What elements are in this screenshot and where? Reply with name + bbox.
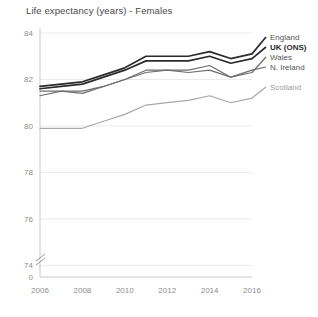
y-axis-tick-label: 84 <box>24 29 33 38</box>
y-axis-tick-label: 82 <box>24 75 33 84</box>
chart-container: Life expectancy (years) - Females 848280… <box>0 0 318 317</box>
y-axis-tick-label: 76 <box>24 215 33 224</box>
legend-item-uk-ons[interactable]: UK (ONS) <box>270 43 307 52</box>
series-line <box>40 70 252 93</box>
legend-item-england[interactable]: England <box>270 33 299 42</box>
x-axis-tick-label: 2006 <box>31 286 49 295</box>
legend-leader-line <box>252 87 266 98</box>
series-line <box>40 96 252 129</box>
y-axis-zero-label: 0 <box>29 273 34 282</box>
legend-item-scotland[interactable]: Scotland <box>270 83 301 92</box>
x-axis-tick-label: 2012 <box>158 286 176 295</box>
legend-leader-line <box>252 47 266 59</box>
y-axis-tick-label: 80 <box>24 122 33 131</box>
series-line <box>40 52 252 87</box>
line-chart: 8482807876740200620082010201220142016Eng… <box>0 0 318 317</box>
legend-leader-line <box>252 37 266 54</box>
y-axis-tick-label: 74 <box>24 261 33 270</box>
legend-item-wales[interactable]: Wales <box>270 53 292 62</box>
x-axis-tick-label: 2008 <box>74 286 92 295</box>
legend-item-n-ireland[interactable]: N. Ireland <box>270 63 305 72</box>
legend-leader-line <box>252 67 266 70</box>
x-axis-tick-label: 2010 <box>116 286 134 295</box>
x-axis-tick-label: 2014 <box>201 286 219 295</box>
x-axis-tick-label: 2016 <box>243 286 261 295</box>
y-axis-tick-label: 78 <box>24 168 33 177</box>
